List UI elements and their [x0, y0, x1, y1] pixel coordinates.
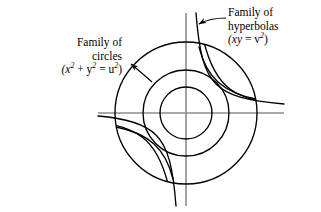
circles-eq-suffix: )	[118, 63, 122, 75]
label-hyperbolas-equation: (xy = v2)	[228, 33, 320, 47]
label-circles-equation: (x2 + y2 = u2)	[18, 63, 122, 77]
figure-container: Family of circles (x2 + y2 = u2) Family …	[0, 0, 321, 212]
leader-line-hyperbolas	[199, 18, 226, 24]
label-hyperbolas-line2: hyperbolas	[228, 20, 320, 34]
hyperbola-member-q3-inner	[98, 116, 176, 206]
annotation-leaders	[131, 18, 226, 82]
circles-eq-equals: = u	[96, 63, 114, 75]
leader-line-circles	[131, 64, 152, 82]
label-family-of-hyperbolas: Family of hyperbolas (xy = v2)	[228, 6, 320, 47]
label-circles-line1: Family of	[18, 36, 122, 50]
label-hyperbolas-line1: Family of	[228, 6, 320, 20]
circles-eq-mid: + y	[74, 63, 92, 75]
hyperbolas-eq-suffix: )	[264, 33, 268, 45]
family-of-hyperbolas-quadrant-3	[98, 116, 176, 206]
label-family-of-circles: Family of circles (x2 + y2 = u2)	[18, 36, 122, 77]
hyperbolas-eq-prefix: (xy	[228, 33, 242, 45]
hyperbolas-eq-equals: = v	[242, 33, 260, 45]
